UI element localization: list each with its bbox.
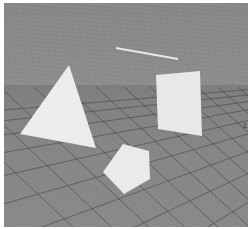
sliver-shape (116, 47, 178, 60)
scene-objects (4, 3, 248, 227)
scene-frame: z (0, 0, 248, 229)
pentagon-shape (103, 144, 150, 194)
square-shape (156, 71, 202, 136)
render-viewport[interactable]: z (4, 3, 248, 227)
triangle-shape (20, 65, 96, 148)
axis-label-z: z (242, 121, 247, 130)
